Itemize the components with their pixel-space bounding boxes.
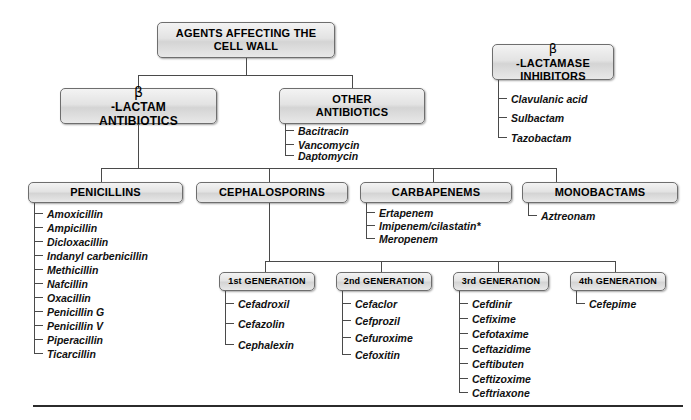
connector-classes-bar: [101, 168, 556, 169]
node-beta-lactamase-line1: β-LACTAMASE: [516, 41, 590, 69]
list-tick: [528, 215, 537, 216]
node-other-antibiotics[interactable]: OTHER ANTIBIOTICS: [279, 88, 425, 124]
list-item-penicillins-0: Amoxicillin: [47, 209, 103, 220]
list-item-gen2-2: Cefuroxime: [355, 333, 413, 344]
list-item-gen4-0: Cefepime: [589, 299, 636, 310]
node-agents-affecting-the-cell-wall[interactable]: AGENTS AFFECTING THE CELL WALL: [157, 22, 335, 58]
node-gen4-label: 4th GENERATION: [579, 276, 657, 287]
list-spine-gen4: [576, 291, 577, 303]
connector-to-gen2: [381, 261, 382, 272]
list-item-penicillins-5: Nafcillin: [47, 279, 88, 290]
node-beta-lactamase-inhibitors[interactable]: β-LACTAMASE INHIBITORS: [492, 44, 614, 80]
list-item-other-antibiotics-1: Vancomycin: [298, 140, 359, 151]
connector-to-other-antibiotics: [352, 75, 353, 88]
list-spine-gen1: [225, 291, 226, 344]
list-item-penicillins-7: Penicillin G: [47, 307, 104, 318]
node-cephalosporins-label: CEPHALOSPORINS: [219, 186, 325, 199]
node-penicillins[interactable]: PENICILLINS: [28, 182, 183, 203]
list-item-gen1-2: Cephalexin: [238, 340, 294, 351]
footer-divider: [33, 405, 683, 407]
list-tick: [366, 238, 375, 239]
list-tick: [34, 227, 43, 228]
beta-glyph: β: [99, 84, 178, 101]
list-tick: [34, 325, 43, 326]
list-item-penicillins-3: Indanyl carbenicillin: [47, 251, 148, 262]
node-cephalosporin-2nd-generation[interactable]: 2nd GENERATION: [336, 272, 432, 291]
list-item-beta-lactamase-0: Clavulanic acid: [511, 94, 587, 105]
node-gen1-label: 1st GENERATION: [228, 276, 306, 287]
list-tick: [342, 320, 351, 321]
list-tick: [34, 339, 43, 340]
list-spine-gen2: [342, 291, 343, 354]
node-cephalosporin-1st-generation[interactable]: 1st GENERATION: [219, 272, 315, 291]
list-tick: [459, 303, 468, 304]
list-item-beta-lactamase-1: Sulbactam: [511, 113, 564, 124]
list-item-gen2-3: Cefoxitin: [355, 350, 400, 361]
connector-to-gen1: [265, 261, 266, 272]
list-tick: [366, 212, 375, 213]
list-item-penicillins-1: Ampicillin: [47, 223, 97, 234]
list-item-gen2-1: Cefprozil: [355, 316, 400, 327]
list-spine-monobactams: [528, 203, 529, 215]
list-tick: [342, 303, 351, 304]
list-item-gen3-5: Ceftizoxime: [472, 374, 531, 385]
connector-to-monobactams: [556, 168, 557, 182]
connector-to-penicillins: [101, 168, 102, 182]
list-tick: [225, 344, 234, 345]
list-tick: [34, 213, 43, 214]
beta-glyph: β: [516, 41, 590, 56]
connector-root-bar: [138, 75, 352, 76]
list-item-penicillins-8: Penicillin V: [47, 321, 103, 332]
node-cephalosporin-4th-generation[interactable]: 4th GENERATION: [570, 272, 666, 291]
node-monobactams-label: MONOBACTAMS: [555, 186, 646, 199]
list-item-gen3-2: Cefotaxime: [472, 329, 529, 340]
list-item-gen2-0: Cefaclor: [355, 299, 397, 310]
list-item-penicillins-6: Oxacillin: [47, 293, 91, 304]
list-tick: [459, 363, 468, 364]
node-gen2-label: 2nd GENERATION: [344, 276, 425, 287]
list-tick: [459, 333, 468, 334]
list-tick: [285, 155, 294, 156]
list-item-gen3-3: Ceftazidime: [472, 344, 531, 355]
node-monobactams[interactable]: MONOBACTAMS: [522, 182, 678, 203]
list-tick: [34, 255, 43, 256]
list-tick: [459, 348, 468, 349]
list-item-other-antibiotics-2: Daptomycin: [298, 151, 358, 162]
list-tick: [225, 303, 234, 304]
list-tick: [34, 283, 43, 284]
list-spine-penicillins: [34, 203, 35, 353]
list-tick: [498, 98, 507, 99]
node-penicillins-label: PENICILLINS: [70, 186, 141, 199]
node-beta-lactam-suffix: -LACTAM: [99, 100, 178, 114]
node-carbapenems-label: CARBAPENEMS: [392, 186, 480, 199]
connector-root-down: [246, 58, 247, 75]
list-item-penicillins-2: Dicloxacillin: [47, 237, 108, 248]
node-carbapenems[interactable]: CARBAPENEMS: [360, 182, 512, 203]
node-gen3-label: 3rd GENERATION: [462, 276, 541, 287]
list-item-gen1-0: Cefadroxil: [238, 299, 289, 310]
node-cephalosporins[interactable]: CEPHALOSPORINS: [196, 182, 348, 203]
list-item-gen3-0: Cefdinir: [472, 299, 512, 310]
node-beta-lactam-line1: β-LACTAM: [99, 84, 178, 115]
connector-to-carbapenems: [433, 168, 434, 182]
list-item-carbapenems-1: Imipenem/cilastatin*: [379, 221, 481, 232]
connector-to-gen3: [498, 261, 499, 272]
list-item-carbapenems-2: Meropenem: [379, 234, 438, 245]
list-tick: [498, 117, 507, 118]
node-cephalosporin-3rd-generation[interactable]: 3rd GENERATION: [453, 272, 549, 291]
list-item-gen3-1: Cefixime: [472, 314, 516, 325]
list-tick: [34, 241, 43, 242]
list-item-penicillins-9: Piperacillin: [47, 335, 103, 346]
node-beta-lactamase-suffix: -LACTAMASE: [516, 57, 590, 70]
list-spine-beta-lactamase: [498, 80, 499, 137]
list-item-monobactams-0: Aztreonam: [541, 211, 595, 222]
diagram-canvas: AGENTS AFFECTING THE CELL WALL β-LACTAM …: [0, 0, 691, 420]
list-tick: [225, 323, 234, 324]
node-beta-lactam-antibiotics[interactable]: β-LACTAM ANTIBIOTICS: [60, 88, 217, 124]
list-item-gen1-1: Cefazolin: [238, 319, 285, 330]
node-root-line1: AGENTS AFFECTING THE: [176, 27, 316, 40]
list-tick: [285, 130, 294, 131]
connector-to-cephalosporins: [269, 168, 270, 182]
list-item-penicillins-4: Methicillin: [47, 265, 98, 276]
list-tick: [459, 318, 468, 319]
